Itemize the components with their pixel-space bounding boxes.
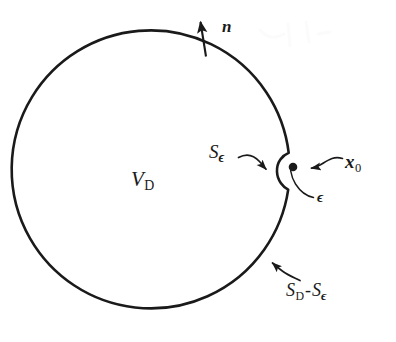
epsilon-leader [291, 171, 314, 198]
se2-subscript: ϵ [321, 288, 327, 303]
volume-symbol: V [131, 167, 144, 191]
x0-symbol: x [345, 151, 355, 172]
volume-subscript: D [144, 178, 154, 193]
volume-label: VD [131, 169, 154, 193]
sd-minus-se-label: SD-Sϵ [286, 281, 327, 303]
epsilon-label: ϵ [317, 190, 323, 205]
se2-symbol: S [312, 280, 321, 300]
normal-vector-label: n [222, 18, 231, 35]
scan-artifact [260, 22, 330, 46]
minus-operator: - [304, 280, 312, 300]
x0-leader [312, 158, 343, 169]
x0-subscript: 0 [355, 161, 362, 175]
s-epsilon-label: Sϵ [209, 142, 224, 165]
sd-minus-se-leader [273, 263, 301, 281]
sd-symbol: S [286, 280, 295, 300]
s-epsilon-symbol: S [209, 141, 219, 162]
s-epsilon-subscript: ϵ [219, 150, 225, 165]
domain-diagram [0, 0, 396, 342]
x0-point-marker [289, 163, 298, 172]
sd-subscript: D [295, 289, 304, 303]
x0-label: x0 [345, 152, 361, 174]
